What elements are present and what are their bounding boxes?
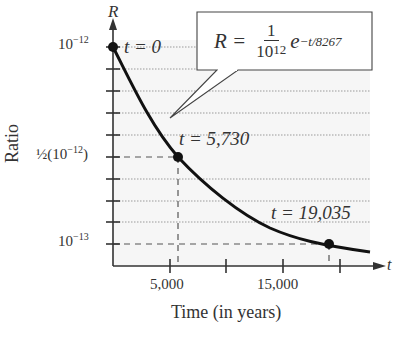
equation-e: e xyxy=(290,29,299,54)
point-t0 xyxy=(108,42,118,52)
equation: R = 1 1012 e−t/8267 xyxy=(214,22,342,61)
equation-lhs: R = xyxy=(214,29,246,54)
y-axis-symbol: R xyxy=(108,2,118,22)
x-axis-symbol: t xyxy=(387,256,391,274)
x-axis-arrow-icon xyxy=(373,262,386,270)
ytick-1e-13: 10−13 xyxy=(58,233,89,250)
label-t5730: t = 5,730 xyxy=(179,128,249,150)
xtick-15000: 15,000 xyxy=(257,276,298,293)
xtick-5000: 5,000 xyxy=(150,276,184,293)
plot-area xyxy=(113,40,370,266)
equation-exponent: −t/8267 xyxy=(300,34,342,50)
equation-fraction: 1 1012 xyxy=(256,22,286,61)
ytick-1e-12: 10−12 xyxy=(58,36,89,53)
x-axis-label: Time (in years) xyxy=(171,302,281,323)
label-t19035: t = 19,035 xyxy=(271,202,351,224)
label-t0: t = 0 xyxy=(124,36,161,58)
ytick-half-1e-12: ½(10−12) xyxy=(36,146,88,163)
y-axis-label: Ratio xyxy=(2,124,23,163)
point-t19035 xyxy=(324,239,334,249)
point-t5730 xyxy=(173,152,183,162)
